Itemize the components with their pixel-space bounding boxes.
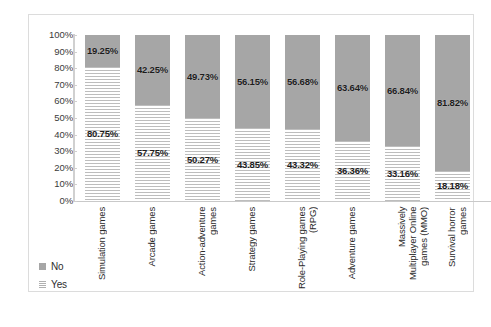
bar-value-label: 18.18% <box>437 181 468 191</box>
bar-group[interactable]: 50.27%49.73% <box>185 35 220 201</box>
y-axis-tick-20: 20% <box>33 162 73 173</box>
bar-segment-no[interactable]: 19.25% <box>85 35 120 67</box>
y-axis-tick-10: 10% <box>33 178 73 189</box>
bar-segment-yes[interactable]: 80.75% <box>85 67 120 201</box>
solid-gray-swatch <box>39 263 46 270</box>
bar-segment-yes[interactable]: 43.85% <box>235 128 270 201</box>
bar-group[interactable]: 80.75%19.25% <box>85 35 120 201</box>
y-axis-tickmark <box>73 151 77 152</box>
bar-value-label: 63.64% <box>337 83 368 93</box>
legend-item-yes[interactable]: Yes <box>39 277 67 292</box>
y-axis-tickmark <box>73 168 77 169</box>
bar-segment-yes[interactable]: 36.36% <box>335 141 370 201</box>
bar-group[interactable]: 33.16%66.84% <box>385 35 420 201</box>
y-axis-tickmark <box>73 35 77 36</box>
x-axis-category-label: Survival horror games <box>446 207 460 291</box>
y-axis-tick-90: 90% <box>33 46 73 57</box>
y-axis-tickmark <box>73 101 77 102</box>
bar-value-label: 36.36% <box>337 166 368 176</box>
bar-value-label: 80.75% <box>87 129 118 139</box>
bar-value-label: 19.25% <box>87 46 118 56</box>
bar-segment-yes[interactable]: 50.27% <box>185 118 220 201</box>
y-axis-tick-labels: 100%90%80%70%60%50%40%30%20%10%0% <box>29 15 73 215</box>
bar-segment-no[interactable]: 56.15% <box>235 35 270 128</box>
bar-value-label: 49.73% <box>187 72 218 82</box>
y-axis-tickmark <box>73 68 77 69</box>
x-axis-line <box>73 201 491 202</box>
bar-group[interactable]: 36.36%63.64% <box>335 35 370 201</box>
x-axis-category-label: Arcade games <box>146 207 160 266</box>
bar-segment-no[interactable]: 81.82% <box>435 35 470 171</box>
legend-item-no[interactable]: No <box>39 259 67 274</box>
bar-value-label: 42.25% <box>137 65 168 75</box>
y-axis-tick-40: 40% <box>33 129 73 140</box>
bar-group[interactable]: 43.85%56.15% <box>235 35 270 201</box>
bar-segment-yes[interactable]: 57.75% <box>135 105 170 201</box>
legend-label: Yes <box>51 279 67 290</box>
x-axis-category-label: Massively Multiplayer Online games (MMO) <box>396 207 420 291</box>
plot-area: 80.75%19.25%57.75%42.25%50.27%49.73%43.8… <box>77 35 489 201</box>
bar-segment-no[interactable]: 49.73% <box>185 35 220 118</box>
y-axis-tick-70: 70% <box>33 79 73 90</box>
y-axis-tick-0: 0% <box>33 195 73 206</box>
x-axis-category-label: Simulation games <box>96 207 110 280</box>
bar-value-label: 43.32% <box>287 160 318 170</box>
chart-legend: NoYes <box>39 259 67 295</box>
bar-value-label: 56.68% <box>287 77 318 87</box>
y-axis-tickmark <box>73 184 77 185</box>
y-axis-tickmark <box>73 52 77 53</box>
bar-value-label: 33.16% <box>387 169 418 179</box>
y-axis-tick-50: 50% <box>33 112 73 123</box>
y-axis-tickmark <box>73 201 77 202</box>
bar-value-label: 57.75% <box>137 148 168 158</box>
x-axis-category-label: Adventure games <box>346 207 360 279</box>
bar-value-label: 66.84% <box>387 86 418 96</box>
y-axis-tick-100: 100% <box>33 29 73 40</box>
bar-value-label: 81.82% <box>437 98 468 108</box>
chart-frame: 100%90%80%70%60%50%40%30%20%10%0% 80.75%… <box>28 14 474 292</box>
bar-value-label: 56.15% <box>237 77 268 87</box>
bar-segment-yes[interactable]: 43.32% <box>285 129 320 201</box>
x-axis-category-label: Role-Playing games (RPG) <box>296 207 310 291</box>
y-axis-tickmark <box>73 135 77 136</box>
bar-segment-no[interactable]: 66.84% <box>385 35 420 146</box>
bar-segment-no[interactable]: 63.64% <box>335 35 370 141</box>
y-axis-tickmark <box>73 118 77 119</box>
bar-group[interactable]: 18.18%81.82% <box>435 35 470 201</box>
y-axis-tick-30: 30% <box>33 145 73 156</box>
y-axis-tickmark <box>73 85 77 86</box>
bar-segment-no[interactable]: 56.68% <box>285 35 320 129</box>
bar-segment-yes[interactable]: 18.18% <box>435 171 470 201</box>
x-axis-category-label: Strategy games <box>246 207 260 271</box>
y-axis-tick-60: 60% <box>33 95 73 106</box>
bar-value-label: 50.27% <box>187 155 218 165</box>
x-axis-category-label: Action-adventure games <box>196 207 210 291</box>
y-axis-tick-80: 80% <box>33 62 73 73</box>
striped-swatch <box>39 281 46 288</box>
legend-label: No <box>51 261 64 272</box>
bar-segment-no[interactable]: 42.25% <box>135 35 170 105</box>
bar-group[interactable]: 43.32%56.68% <box>285 35 320 201</box>
bar-segment-yes[interactable]: 33.16% <box>385 146 420 201</box>
bar-group[interactable]: 57.75%42.25% <box>135 35 170 201</box>
bar-value-label: 43.85% <box>237 160 268 170</box>
